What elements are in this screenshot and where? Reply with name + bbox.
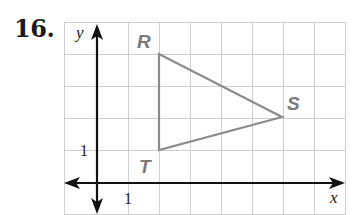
- vertex-label-r: R: [137, 31, 151, 52]
- x-tick-label: 1: [124, 190, 132, 207]
- x-axis-label: x: [329, 188, 338, 207]
- vertex-label-t: T: [139, 156, 152, 177]
- coordinate-plane: y x 1 1 R S T: [0, 0, 362, 215]
- y-tick-label: 1: [80, 142, 88, 159]
- y-axis-label: y: [74, 23, 84, 42]
- grid: [64, 22, 346, 215]
- vertex-label-s: S: [287, 93, 300, 114]
- triangle-rst: [159, 54, 282, 150]
